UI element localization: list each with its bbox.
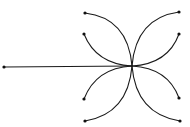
- arc-top-right-outer: [132, 12, 179, 66]
- node-bottom-right-inner: [177, 96, 180, 99]
- node-bottom-left-inner: [82, 97, 85, 100]
- diagram-edges: [4, 12, 180, 121]
- node-top-left-outer: [83, 11, 86, 14]
- node-bottom-right-outer: [178, 119, 181, 122]
- node-bottom-left-outer: [83, 119, 86, 122]
- node-top-right-inner: [177, 32, 180, 35]
- node-top-right-outer: [177, 10, 180, 13]
- fan-diagram: [0, 0, 190, 127]
- arc-bottom-right-outer: [132, 66, 180, 121]
- node-top-left-inner: [82, 32, 85, 35]
- stem-endpoint-node: [2, 65, 5, 68]
- arc-top-left-outer: [85, 13, 132, 66]
- arc-bottom-left-outer: [85, 66, 132, 121]
- stem-line: [4, 66, 132, 67]
- diagram-canvas: [0, 0, 190, 127]
